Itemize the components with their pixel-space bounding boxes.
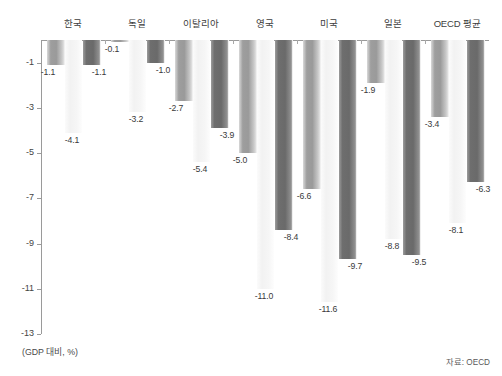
- bar-영국-s2: [257, 40, 274, 289]
- bar-value-label: -1.9: [355, 85, 381, 95]
- group-label-5: 미국: [297, 16, 361, 30]
- bar-value-label: -1.0: [150, 65, 176, 75]
- bar-value-label: -4.1: [59, 135, 85, 145]
- y-axis-tick-label: -7: [4, 192, 34, 202]
- group-label-3: 이탈리아: [169, 16, 233, 30]
- bar-value-label: -3.9: [214, 130, 240, 140]
- y-axis-tick: [37, 334, 41, 335]
- group-label-7: OECD 평균: [425, 16, 489, 30]
- y-axis-tick-label: -9: [4, 238, 34, 248]
- x-axis-group-tick: [361, 40, 362, 44]
- bar-이탈리아-s1: [175, 40, 193, 101]
- unit-caption: (GDP 대비, %): [22, 345, 78, 358]
- y-axis-tick: [37, 108, 41, 109]
- bar-value-label: -1.1: [86, 67, 112, 77]
- group-label-4: 영국: [233, 16, 297, 30]
- bar-value-label: -8.4: [278, 232, 304, 242]
- bar-value-label: -11.6: [315, 304, 341, 314]
- bar-일본-s3: [403, 40, 421, 255]
- bar-이탈리아-s3: [211, 40, 229, 128]
- bar-value-label: -2.7: [163, 103, 189, 113]
- bar-미국-s3: [339, 40, 357, 259]
- bar-value-label: -5.0: [227, 155, 253, 165]
- bar-value-label: -8.1: [443, 225, 469, 235]
- y-axis-tick-label: -13: [4, 328, 34, 338]
- bar-일본-s2: [385, 40, 402, 239]
- y-axis-tick: [37, 153, 41, 154]
- bar-OECD-평균-s2: [449, 40, 466, 223]
- bar-value-label: -6.3: [470, 184, 496, 194]
- bar-독일-s3: [147, 40, 165, 63]
- bar-독일-s2: [129, 40, 146, 112]
- y-axis-tick-label: -1: [4, 57, 34, 67]
- y-axis-tick: [37, 63, 41, 64]
- bar-미국-s1: [303, 40, 321, 189]
- bar-value-label: -6.6: [291, 191, 317, 201]
- bar-value-label: -1.1: [35, 67, 61, 77]
- bar-한국-s3: [83, 40, 101, 65]
- bar-영국-s1: [239, 40, 257, 153]
- bar-OECD-평균-s1: [431, 40, 449, 117]
- y-axis-line: [41, 40, 42, 334]
- bar-value-label: -5.4: [187, 164, 213, 174]
- bar-chart: -1-3-5-7-9-11-13한국-1.1-4.1-1.1독일-0.1-3.2…: [0, 0, 502, 376]
- bar-일본-s1: [367, 40, 385, 83]
- y-axis-tick: [37, 198, 41, 199]
- bar-한국-s1: [47, 40, 65, 65]
- bar-value-label: -3.4: [419, 119, 445, 129]
- bar-이탈리아-s2: [193, 40, 210, 162]
- group-label-1: 한국: [41, 16, 105, 30]
- bar-value-label: -9.5: [406, 257, 432, 267]
- x-axis-group-tick: [233, 40, 234, 44]
- y-axis-tick-label: -11: [4, 283, 34, 293]
- bar-value-label: -8.8: [379, 241, 405, 251]
- bar-value-label: -11.0: [251, 291, 277, 301]
- x-axis-group-tick: [169, 40, 170, 44]
- bar-한국-s2: [65, 40, 82, 133]
- y-axis-tick-label: -5: [4, 147, 34, 157]
- group-label-2: 독일: [105, 16, 169, 30]
- bar-value-label: -0.1: [99, 44, 125, 54]
- bar-미국-s2: [321, 40, 338, 302]
- bar-독일-s1: [111, 40, 129, 42]
- source-caption: 자료: OECD: [446, 355, 490, 367]
- bar-영국-s3: [275, 40, 293, 230]
- group-label-6: 일본: [361, 16, 425, 30]
- bar-value-label: -3.2: [123, 114, 149, 124]
- y-axis-tick: [37, 289, 41, 290]
- y-axis-tick: [37, 244, 41, 245]
- bar-value-label: -9.7: [342, 261, 368, 271]
- x-axis-group-tick: [297, 40, 298, 44]
- x-axis-group-tick: [425, 40, 426, 44]
- bar-OECD-평균-s3: [467, 40, 485, 182]
- y-axis-tick-label: -3: [4, 102, 34, 112]
